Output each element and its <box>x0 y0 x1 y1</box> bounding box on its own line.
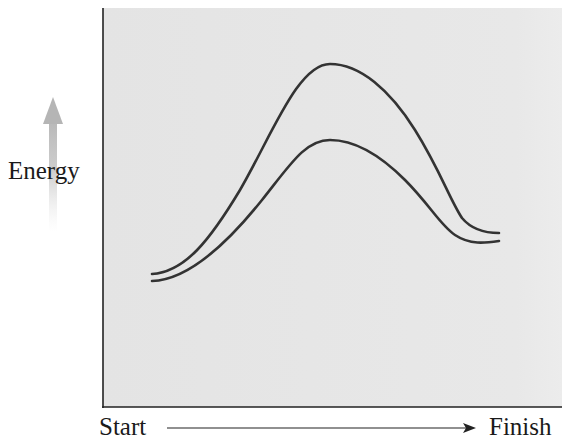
x-axis-finish-label: Finish <box>489 414 552 439</box>
x-axis-start-label: Start <box>99 414 146 439</box>
y-axis-label: Energy <box>8 158 80 183</box>
diagram-canvas <box>0 0 569 440</box>
progress-arrow-icon <box>167 423 476 433</box>
plot-area <box>103 8 562 407</box>
energy-diagram: Energy Start Finish <box>0 0 569 440</box>
